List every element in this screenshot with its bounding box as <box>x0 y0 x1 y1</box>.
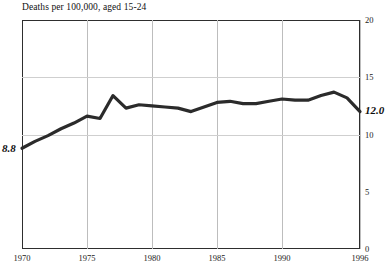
y-tick-10: 10 <box>365 130 374 140</box>
x-tick-1985: 1985 <box>209 253 226 263</box>
end-value-label: 12.0 <box>365 104 384 116</box>
line-chart: Deaths per 100,000, aged 15-24 05101520 … <box>0 0 387 273</box>
series-line-layer <box>22 20 360 249</box>
x-tick-1970: 1970 <box>14 253 31 263</box>
y-tick-5: 5 <box>365 187 369 197</box>
start-value-label: 8.8 <box>2 142 16 154</box>
gridline-x-1996 <box>360 20 361 249</box>
x-tick-1980: 1980 <box>144 253 161 263</box>
x-tick-1975: 1975 <box>79 253 96 263</box>
x-tick-1996: 1996 <box>352 253 369 263</box>
series-line-deaths <box>22 92 360 148</box>
y-tick-20: 20 <box>365 15 374 25</box>
x-tick-1990: 1990 <box>274 253 291 263</box>
chart-title: Deaths per 100,000, aged 15-24 <box>22 2 146 12</box>
plot-area <box>22 20 360 249</box>
y-tick-15: 15 <box>365 72 374 82</box>
